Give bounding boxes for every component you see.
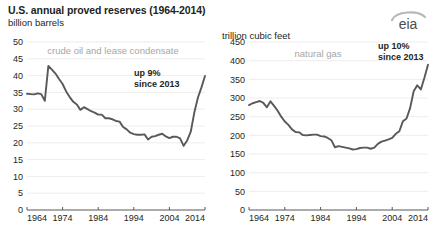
y-axis-tick-label: 250 — [230, 112, 245, 122]
y-axis-tick-label: 400 — [230, 56, 245, 66]
y-axis-tick-label: 150 — [230, 149, 245, 159]
x-axis-tick-label: 2014 — [408, 213, 428, 223]
y-axis-tick-label: 50 — [235, 187, 245, 197]
y-axis-tick-label: 300 — [230, 93, 245, 103]
data-series-line — [249, 65, 428, 150]
chart-natural-gas: 0501001502002503003504004501964197419841… — [0, 0, 436, 245]
y-axis-tick-label: 450 — [230, 37, 245, 47]
x-axis-tick-label: 1994 — [346, 213, 366, 223]
series-label: natural gas — [294, 48, 341, 59]
x-axis-tick-label: 1974 — [275, 213, 295, 223]
y-axis-tick-label: 100 — [230, 168, 245, 178]
x-axis-tick-label: 1984 — [311, 213, 331, 223]
y-axis-tick-label: 200 — [230, 131, 245, 141]
y-axis-tick-label: 350 — [230, 75, 245, 85]
callout-line-2: since 2013 — [378, 52, 424, 62]
x-axis-tick-label: 1964 — [249, 213, 269, 223]
x-axis-tick-label: 2004 — [382, 213, 402, 223]
infographic-page: U.S. annual proved reserves (1964-2014) … — [0, 0, 436, 245]
y-axis-tick-label: 0 — [240, 205, 245, 215]
callout-line-1: up 10% — [378, 41, 410, 51]
